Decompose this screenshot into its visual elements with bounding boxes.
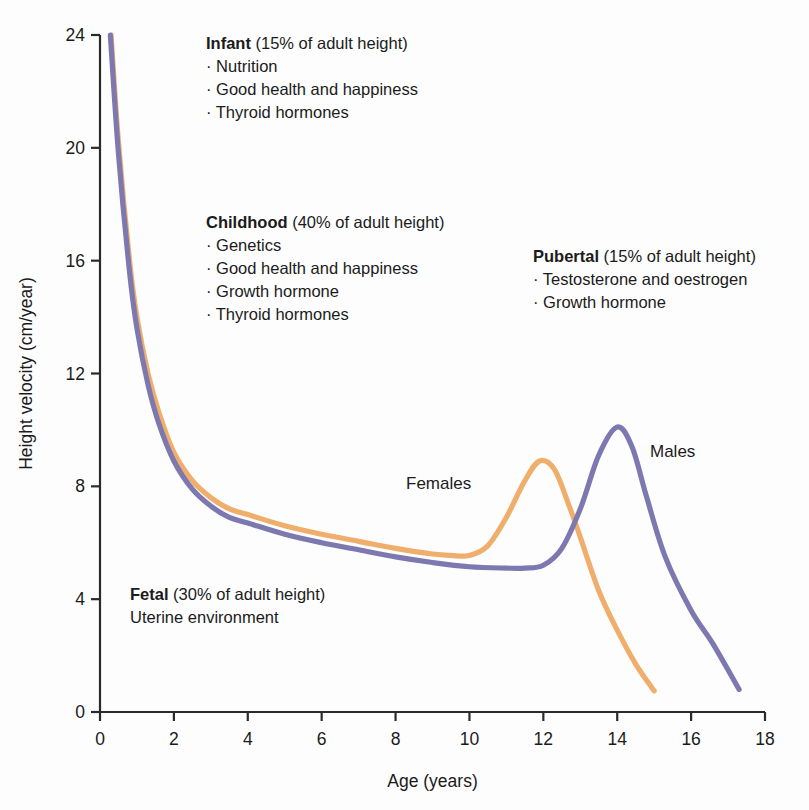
y-tick-label: 16 xyxy=(66,251,85,271)
series-label-females: Females xyxy=(406,474,471,494)
annotation-childhood: Childhood (40% of adult height)· Genetic… xyxy=(206,211,444,326)
annotation-heading-title: Infant xyxy=(206,34,251,52)
annotation-heading-subtitle: (40% of adult height) xyxy=(288,213,445,231)
annotation-bullet: · Nutrition xyxy=(206,55,418,78)
annotation-bullet: · Good health and happiness xyxy=(206,78,418,101)
x-tick-label: 14 xyxy=(607,729,627,749)
annotation-heading-title: Fetal xyxy=(130,585,169,603)
annotation-heading-subtitle: (15% of adult height) xyxy=(599,247,756,265)
annotation-heading: Pubertal (15% of adult height) xyxy=(533,245,756,268)
y-tick-label: 8 xyxy=(75,476,85,496)
annotation-bullet: · Good health and happiness xyxy=(206,257,444,280)
annotation-bullet: · Growth hormone xyxy=(206,280,444,303)
x-tick-label: 12 xyxy=(534,729,553,749)
x-tick-label: 16 xyxy=(681,729,700,749)
y-tick-label: 0 xyxy=(75,702,85,722)
annotation-heading: Childhood (40% of adult height) xyxy=(206,211,444,234)
annotation-infant: Infant (15% of adult height)· Nutrition·… xyxy=(206,32,418,124)
annotation-heading: Infant (15% of adult height) xyxy=(206,32,418,55)
x-axis-title: Age (years) xyxy=(387,771,477,791)
annotation-line: Uterine environment xyxy=(130,606,325,629)
x-tick-label: 2 xyxy=(169,729,179,749)
annotation-heading-title: Childhood xyxy=(206,213,288,231)
x-tick-label: 6 xyxy=(317,729,327,749)
y-tick-label: 24 xyxy=(66,25,86,45)
y-tick-label: 4 xyxy=(75,589,85,609)
annotation-fetal: Fetal (30% of adult height)Uterine envir… xyxy=(130,583,325,629)
x-tick-label: 10 xyxy=(460,729,480,749)
y-axis-title: Height velocity (cm/year) xyxy=(16,277,36,470)
series-label-males: Males xyxy=(650,442,695,462)
x-tick-label: 0 xyxy=(95,729,105,749)
y-tick-label: 12 xyxy=(66,364,85,384)
x-tick-label: 8 xyxy=(391,729,401,749)
y-tick-label: 20 xyxy=(66,138,86,158)
annotation-heading: Fetal (30% of adult height) xyxy=(130,583,325,606)
annotation-heading-subtitle: (15% of adult height) xyxy=(251,34,408,52)
annotation-bullet: · Testosterone and oestrogen xyxy=(533,268,756,291)
annotation-heading-subtitle: (30% of adult height) xyxy=(169,585,326,603)
axes: 04812162024024681012141618 xyxy=(66,25,775,749)
annotation-bullet: · Genetics xyxy=(206,234,444,257)
annotation-bullet: · Growth hormone xyxy=(533,291,756,314)
growth-velocity-chart: 04812162024024681012141618 Age (years)He… xyxy=(0,0,809,810)
annotation-pubertal: Pubertal (15% of adult height)· Testoste… xyxy=(533,245,756,314)
annotation-bullet: · Thyroid hormones xyxy=(206,101,418,124)
annotation-heading-title: Pubertal xyxy=(533,247,599,265)
annotation-bullet: · Thyroid hormones xyxy=(206,303,444,326)
x-tick-label: 4 xyxy=(243,729,253,749)
x-tick-label: 18 xyxy=(755,729,774,749)
